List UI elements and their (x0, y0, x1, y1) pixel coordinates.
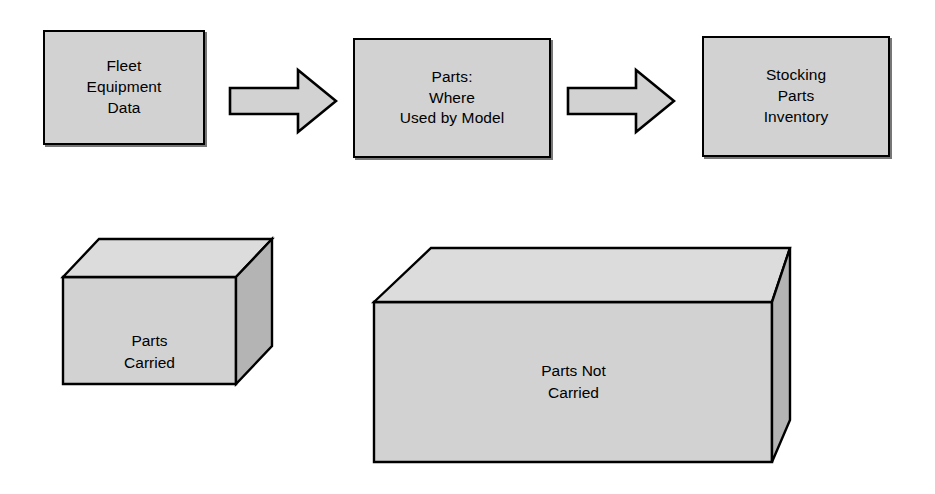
volume-prism-parts-carried[interactable] (58, 232, 282, 394)
right-block-arrow-icon (566, 66, 676, 136)
process-box-stocking-parts-inventory[interactable]: Stocking Parts Inventory (702, 36, 890, 157)
prism-front-face (374, 302, 772, 462)
prism-top-face (374, 248, 790, 302)
right-block-arrow-icon (228, 66, 338, 136)
diagram-canvas: Fleet Equipment Data Parts: Where Used b… (0, 0, 935, 494)
process-box-parts-where-used-by-model[interactable]: Parts: Where Used by Model (353, 38, 551, 158)
process-box-label: Stocking Parts Inventory (764, 65, 829, 128)
prism-front-face (63, 277, 236, 384)
process-box-fleet-equipment-data[interactable]: Fleet Equipment Data (43, 30, 205, 145)
process-box-label: Parts: Where Used by Model (400, 67, 505, 130)
process-box-label: Fleet Equipment Data (86, 56, 161, 119)
volume-prism-parts-not-carried[interactable] (368, 240, 800, 472)
